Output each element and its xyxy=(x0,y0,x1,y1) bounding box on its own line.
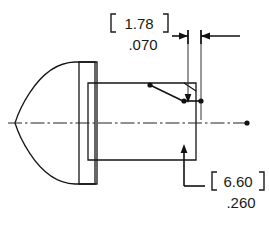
metric-bracket-open xyxy=(111,14,116,32)
cad-drawing-svg: 1.78 .070 6.60 .260 xyxy=(0,0,269,229)
axis-centerline xyxy=(8,120,250,125)
metric-bracket-open-bottom xyxy=(212,172,217,190)
leader-terminator-dot xyxy=(198,98,203,103)
dimension-chamfer-width: 1.78 .070 xyxy=(111,14,240,120)
leader-origin-dot xyxy=(147,82,152,87)
leader-chamfer xyxy=(150,85,183,101)
chamfer-edge xyxy=(184,83,196,91)
dimension-metric-value-bottom: 6.60 xyxy=(223,173,252,190)
dimension-body-feature: 6.60 .260 xyxy=(181,144,264,211)
dimension-metric-value-top: 1.78 xyxy=(124,15,153,32)
dimension-inch-value-bottom: .260 xyxy=(226,194,255,211)
arrowhead-left-pointing xyxy=(201,33,210,40)
metric-bracket-close xyxy=(163,14,168,32)
metric-bracket-close-bottom xyxy=(259,172,264,190)
dimension-inch-value-top: .070 xyxy=(128,36,157,53)
centerline-terminator-dot xyxy=(244,120,249,125)
technical-drawing-canvas: 1.78 .070 6.60 .260 xyxy=(0,0,269,229)
body-cylinder xyxy=(88,83,196,160)
arrowhead-right-pointing xyxy=(179,33,188,40)
